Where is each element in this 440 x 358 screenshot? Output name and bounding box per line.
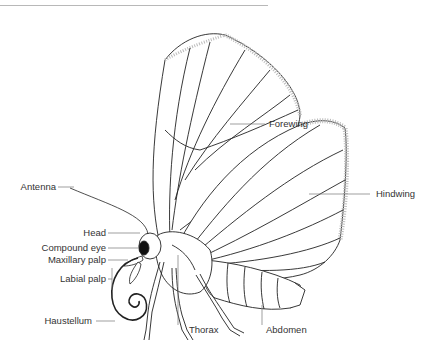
head <box>139 233 161 259</box>
label-hindwing: Hindwing <box>376 188 415 199</box>
label-thorax: Thorax <box>189 324 219 335</box>
label-abdomen: Abdomen <box>266 324 307 335</box>
haustellum <box>112 258 147 320</box>
label-compound-eye: Compound eye <box>0 242 106 253</box>
label-forewing: Forewing <box>269 118 308 129</box>
label-antenna: Antenna <box>0 181 56 192</box>
compound-eye <box>139 241 149 255</box>
label-head: Head <box>0 227 106 238</box>
moth-illustration <box>0 0 440 358</box>
label-maxillary-palp: Maxillary palp <box>0 254 106 265</box>
label-haustellum: Haustellum <box>0 315 92 326</box>
label-labial-palp: Labial palp <box>0 273 106 284</box>
